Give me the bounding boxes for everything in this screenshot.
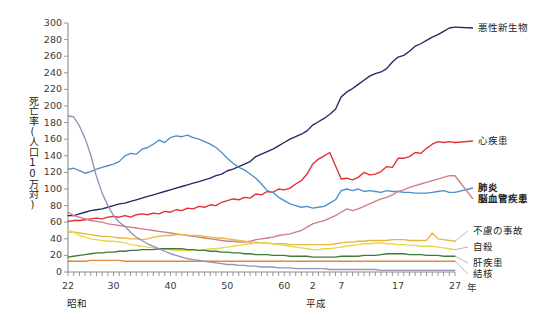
x-tick-label: 27	[443, 280, 467, 291]
leader-line-脳血管疾患	[455, 176, 473, 199]
leader-line-不慮の事故	[455, 231, 468, 241]
series-line-脳血管疾患	[68, 176, 455, 242]
x-tick-label: 40	[158, 280, 182, 291]
x-tick-label: 22	[56, 280, 80, 291]
axis-lines	[68, 23, 455, 272]
series-label-結核: 結核	[473, 268, 493, 279]
series-line-自殺	[68, 231, 455, 251]
series-line-肝疾患	[68, 249, 455, 257]
era-label: 昭和	[57, 296, 97, 310]
series-label-自殺: 自殺	[473, 241, 493, 252]
x-tick-label: 2	[301, 280, 325, 291]
x-tick-label: 7	[329, 280, 353, 291]
leader-line-心疾患	[455, 141, 473, 143]
leader-line-悪性新生物	[455, 27, 473, 28]
series-line-結核(初期)	[68, 116, 455, 270]
series-line-結核	[68, 260, 455, 261]
leader-line-結核	[455, 261, 468, 274]
x-tick-label: 30	[102, 280, 126, 291]
series-label-不慮の事故: 不慮の事故	[473, 225, 523, 236]
series-label-肺炎: 肺炎	[478, 182, 498, 193]
series-label-心疾患: 心疾患	[478, 135, 508, 146]
series-label-肝疾患: 肝疾患	[473, 257, 503, 268]
series-label-悪性新生物: 悪性新生物	[478, 22, 528, 33]
x-tick-label: 17	[386, 280, 410, 291]
x-tick-label: 60	[272, 280, 296, 291]
series-line-肺炎	[68, 135, 455, 208]
era-label: 平成	[296, 296, 336, 310]
plot-surface	[0, 0, 546, 321]
x-axis-unit-label: 年	[467, 280, 477, 294]
series-label-脳血管疾患: 脳血管疾患	[478, 193, 528, 204]
series-line-悪性新生物	[68, 27, 455, 215]
leader-line-肝疾患	[455, 256, 468, 263]
leader-line-肺炎	[455, 188, 473, 192]
chart-container: 死亡率(人口10万対) 0204060801001201401601802002…	[0, 0, 546, 321]
x-tick-label: 50	[215, 280, 239, 291]
leader-line-自殺	[455, 247, 468, 250]
